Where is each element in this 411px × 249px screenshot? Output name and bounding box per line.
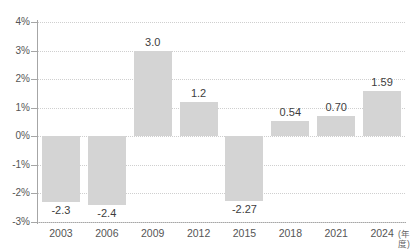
- y-axis-label-1pct: 1%: [2, 103, 30, 113]
- plot-area: [38, 22, 405, 222]
- y-tick-2: [31, 79, 37, 80]
- gridline-3: [38, 51, 405, 52]
- y-axis-label-3pct: 3%: [2, 46, 30, 56]
- clipped-text-bottom: [0, 239, 411, 246]
- gridline-4: [38, 22, 405, 23]
- y-tick-neg2: [31, 193, 37, 194]
- y-tick-3: [31, 51, 37, 52]
- bar-2009: [134, 51, 172, 137]
- value-label-2009: 3.0: [123, 37, 183, 48]
- bar-2006: [88, 136, 126, 205]
- y-tick-neg3: [31, 222, 37, 223]
- y-axis-label-4pct: 4%: [2, 17, 30, 27]
- gridline-neg3: [38, 222, 405, 223]
- y-axis-label-neg3pct: -3%: [2, 217, 30, 227]
- value-label-2021: 0.70: [306, 102, 366, 113]
- value-label-2015: -2.27: [214, 204, 274, 215]
- gridline-2: [38, 79, 405, 80]
- y-tick-0: [31, 136, 37, 137]
- bar-2012: [180, 102, 218, 136]
- y-axis-tick-labels: 4%3%2%1%0%-1%-2%-3%: [0, 0, 30, 246]
- bar-2021: [317, 116, 355, 136]
- y-axis-label-2pct: 2%: [2, 74, 30, 84]
- value-label-2024: 1.59: [352, 77, 411, 88]
- bar-2003: [42, 136, 80, 202]
- value-label-2012: 1.2: [169, 88, 229, 99]
- clipped-text-top: [0, 0, 411, 7]
- y-axis-label-neg1pct: -1%: [2, 160, 30, 170]
- bar-2018: [271, 121, 309, 136]
- y-axis-label-neg2pct: -2%: [2, 188, 30, 198]
- bar-2024: [363, 91, 401, 136]
- value-label-2006: -2.4: [77, 208, 137, 219]
- y-tick-4: [31, 22, 37, 23]
- y-tick-neg1: [31, 165, 37, 166]
- bar-2015: [225, 136, 263, 201]
- y-axis-label-0pct: 0%: [2, 131, 30, 141]
- y-tick-1: [31, 108, 37, 109]
